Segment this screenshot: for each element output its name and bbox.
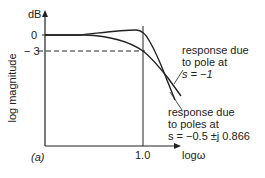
x-axis-label: logω xyxy=(182,149,205,161)
tick-zero-label: 0 xyxy=(31,29,37,41)
x-axis-arrow-icon xyxy=(174,143,181,149)
panel-label: (a) xyxy=(31,151,44,163)
y-axis-label: log magnitude xyxy=(6,48,18,128)
annotation-second-order: response due to poles at s = −0.5 ±j 0.8… xyxy=(168,106,250,142)
annotation-first-order: response due to pole at s = −1 xyxy=(182,44,249,80)
x-tick-label: 1.0 xyxy=(135,149,150,161)
y-axis-arrow-icon xyxy=(42,10,48,17)
tick-minus3-label: − 3 xyxy=(24,45,40,57)
y-unit-label: dB xyxy=(28,8,41,20)
second-order-curve xyxy=(45,30,175,100)
